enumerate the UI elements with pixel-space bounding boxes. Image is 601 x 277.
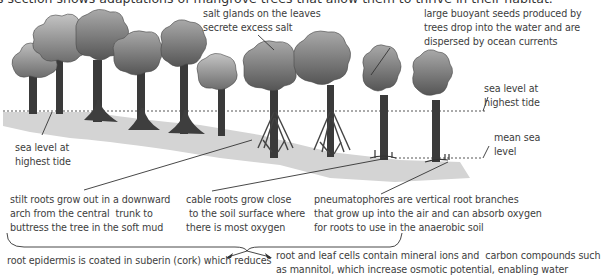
seeds-label: large buoyant seeds produced by trees dr… (424, 7, 582, 49)
mineral-ions-label: root and leaf cells contain mineral ions… (276, 249, 601, 277)
mean-sea-level-label: mean sea level (494, 131, 540, 159)
sea-level-highest-tide-left-label: sea level at highest tide (15, 141, 71, 169)
cable-roots-label: cable roots grow close to the soil surfa… (186, 193, 305, 235)
pneumatophores-label: pneumatophores are vertical root branche… (314, 193, 542, 235)
stilt-roots-label: stilt roots grow out in a downward arch … (10, 193, 170, 235)
salt-glands-label: salt glands on the leaves secrete excess… (203, 7, 321, 35)
suberin-label: root epidermis is coated in suberin (cor… (7, 254, 271, 268)
sea-level-highest-tide-right-label: sea level at highest tide (484, 82, 540, 110)
mud-bank (3, 112, 470, 182)
